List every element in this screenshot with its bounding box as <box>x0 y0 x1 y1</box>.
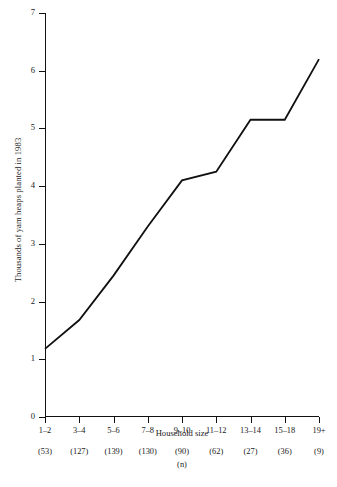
x-axis-tick <box>114 417 115 423</box>
x-axis-tick <box>319 417 320 423</box>
y-axis-tick-label: 1 <box>15 353 35 364</box>
chart-figure: Thousands of yam heaps planted in 1983 0… <box>0 0 337 487</box>
line-series <box>45 13 319 417</box>
x-axis-tick <box>285 417 286 423</box>
x-axis-tick <box>182 417 183 423</box>
sample-size-caption: (n) <box>45 460 319 469</box>
y-axis-tick-label: 2 <box>15 296 35 307</box>
y-axis-tick-label: 6 <box>15 65 35 76</box>
y-axis-tick-label: 5 <box>15 122 35 133</box>
x-axis-title: Household size <box>45 428 319 438</box>
y-axis-tick-label: 7 <box>15 7 35 18</box>
x-axis-tick <box>148 417 149 423</box>
x-axis-tick <box>251 417 252 423</box>
sample-size-value: (9) <box>297 446 337 457</box>
plot-area: 01234567 1–23–45–67–89–1011–1213–1415–18… <box>45 13 319 417</box>
y-axis-tick-label: 0 <box>15 411 35 422</box>
x-axis-tick <box>79 417 80 423</box>
x-axis-tick <box>45 417 46 423</box>
y-axis-tick-label: 3 <box>15 238 35 249</box>
y-axis-tick-label: 4 <box>15 180 35 191</box>
x-axis-tick <box>216 417 217 423</box>
